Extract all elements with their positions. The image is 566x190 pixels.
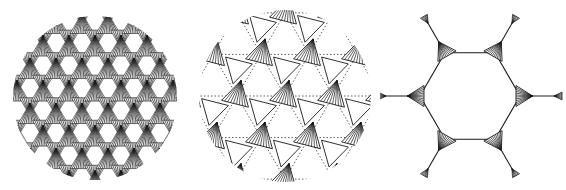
panel-b-kagome-lattice [190, 0, 380, 190]
panel-c-hexagonal-ring [380, 0, 566, 190]
star-lattice-diagram [0, 0, 190, 190]
hexagonal-ring-diagram [380, 0, 566, 190]
panel-a-star-lattice [0, 0, 190, 190]
kagome-lattice-diagram [190, 0, 380, 190]
